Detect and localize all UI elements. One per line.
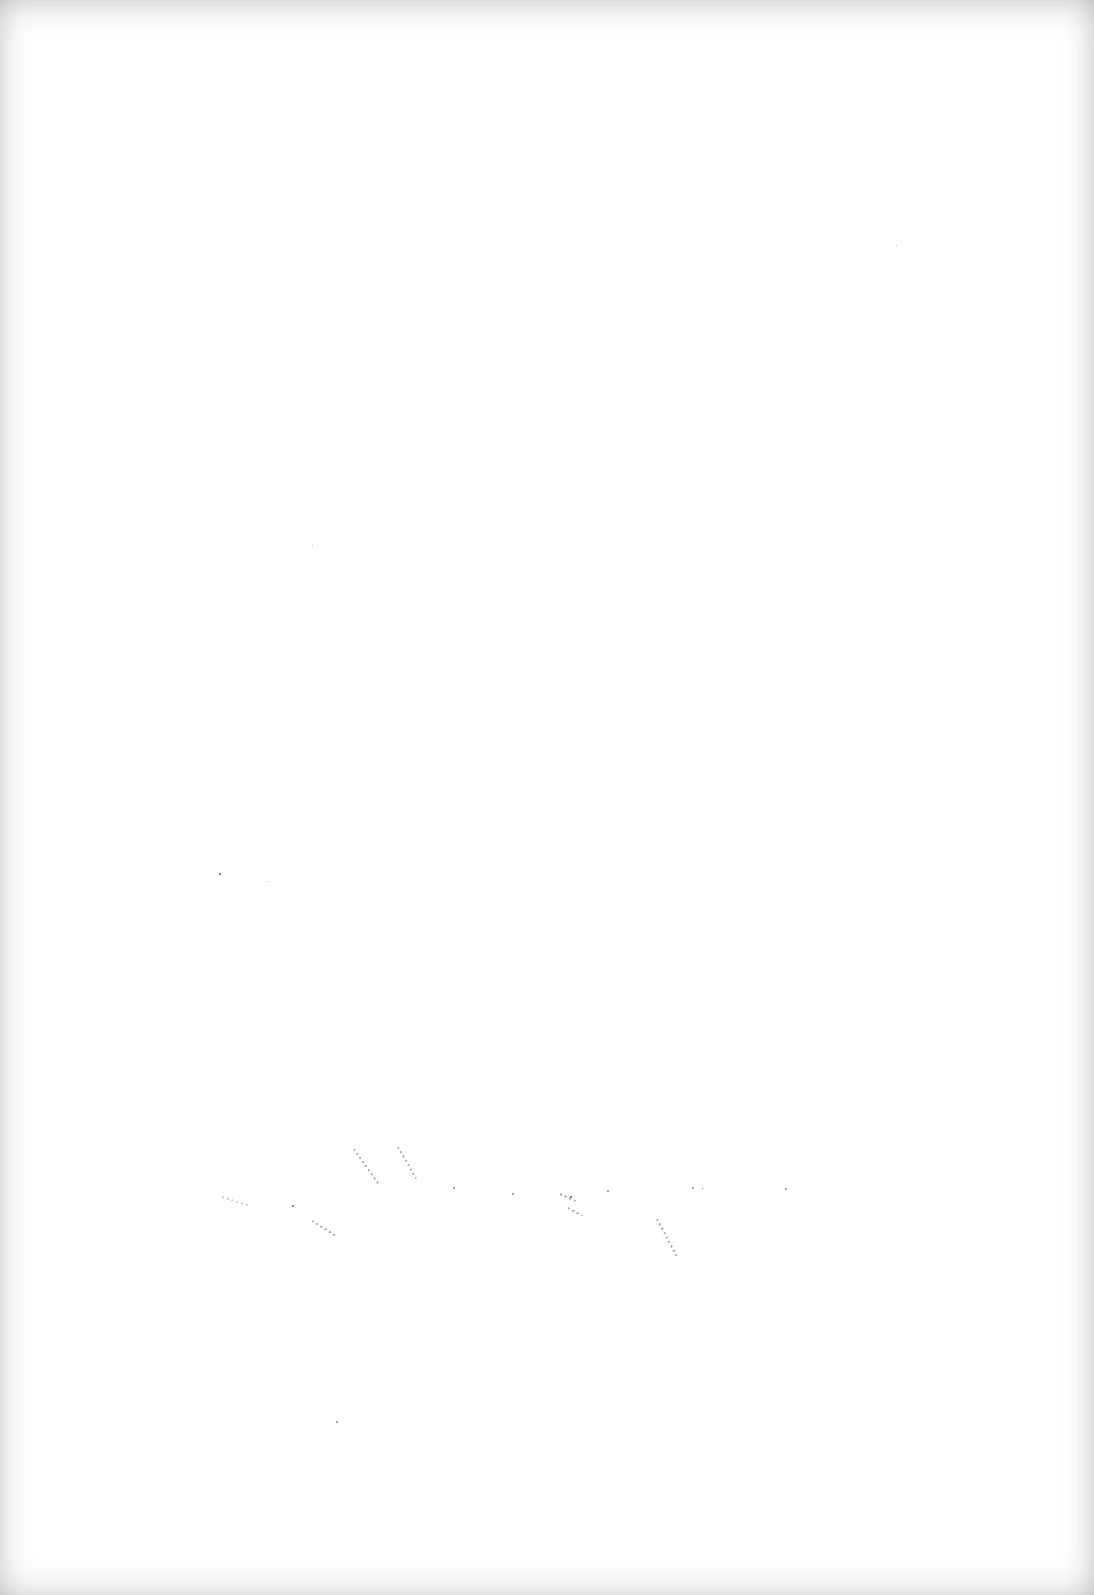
smudge: [311, 1220, 338, 1238]
speck: [336, 1421, 338, 1423]
speck: [292, 1205, 294, 1207]
blank-page: [0, 0, 1094, 1595]
speck: [512, 1193, 514, 1195]
speck: [219, 873, 221, 875]
speck: [785, 1188, 787, 1190]
smudge: [568, 1207, 583, 1216]
speck: [453, 1187, 455, 1189]
smudge: [397, 1147, 417, 1179]
smudge: [353, 1148, 380, 1185]
smudge: [222, 1196, 249, 1207]
smudge: [656, 1219, 677, 1257]
speck: [896, 245, 897, 246]
speck: [692, 1187, 694, 1189]
speck: [267, 881, 268, 882]
speck: [702, 1188, 703, 1189]
smudge: [560, 1193, 579, 1203]
speck: [607, 1190, 609, 1192]
speck: [312, 545, 313, 546]
